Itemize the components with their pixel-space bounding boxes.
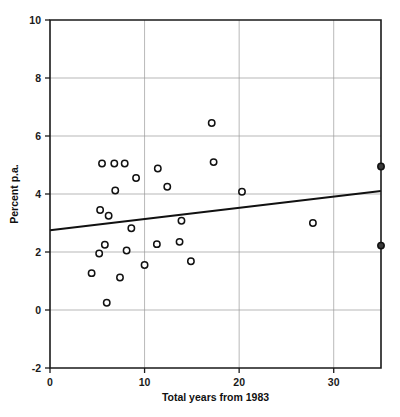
data-point [105,213,111,219]
data-point [310,220,316,226]
y-tick-label: 0 [35,304,41,316]
y-tick-label: 2 [35,246,41,258]
data-point [188,258,194,264]
data-point [128,225,134,231]
data-point [111,160,117,166]
data-point [209,120,215,126]
data-point [88,270,94,276]
axis-titles-group: Total years from 1983Percent p.a. [8,164,269,403]
gridlines-group [50,20,381,368]
data-point [97,207,103,213]
x-tick-label: 10 [139,376,151,388]
data-point-filled [378,163,384,169]
data-point [210,159,216,165]
data-point [178,217,184,223]
data-point [96,250,102,256]
data-point [112,187,118,193]
x-tick-label: 30 [328,376,340,388]
data-point [133,175,139,181]
data-points-group [88,120,384,306]
data-point [239,188,245,194]
y-tick-label: 6 [35,130,41,142]
data-point [123,247,129,253]
data-point [102,242,108,248]
y-tick-label: 8 [35,72,41,84]
tickmarks-group [45,20,334,373]
data-point [99,160,105,166]
scatter-plot-figure: -202468100102030 Total years from 1983Pe… [0,0,400,417]
x-tick-label: 0 [47,376,53,388]
y-tick-label: 4 [35,188,41,200]
data-point [164,184,170,190]
y-tick-label: -2 [32,362,41,374]
x-tick-label: 20 [233,376,245,388]
y-tick-label: 10 [29,14,41,26]
data-point [154,241,160,247]
data-point [117,274,123,280]
data-point [122,160,128,166]
x-axis-title: Total years from 1983 [162,391,269,403]
data-point [104,300,110,306]
y-axis-title: Percent p.a. [8,164,20,224]
data-point [141,262,147,268]
data-point [155,165,161,171]
data-point [176,239,182,245]
data-point-filled [378,242,384,248]
